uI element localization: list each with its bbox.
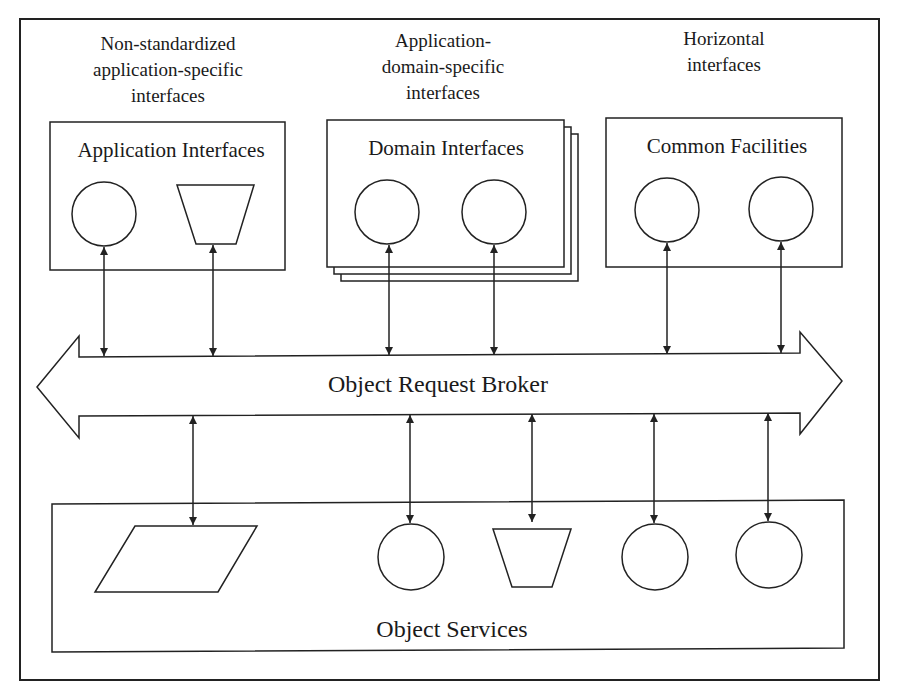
interface-circle-icon[interactable] <box>462 180 526 244</box>
caption-domain-specific: Application- domain-specific interfaces <box>382 30 504 103</box>
orb-title: Object Request Broker <box>328 371 548 397</box>
interface-circle-icon[interactable] <box>72 182 136 246</box>
caption-app-specific: Non-standardized application-specific in… <box>93 33 243 106</box>
caption-line: interfaces <box>406 82 480 103</box>
box-title: Object Services <box>376 616 527 642</box>
object-request-broker[interactable]: Object Request Broker <box>37 332 842 438</box>
corba-architecture-diagram: Non-standardized application-specific in… <box>0 0 898 691</box>
object-services-box[interactable]: Object Services <box>52 500 844 652</box>
caption-line: Application- <box>395 30 491 51</box>
caption-line: Non-standardized <box>100 33 236 54</box>
interface-circle-icon[interactable] <box>749 177 813 241</box>
interface-circle-icon[interactable] <box>355 180 419 244</box>
service-circle-icon[interactable] <box>378 524 444 590</box>
caption-line: application-specific <box>93 59 243 80</box>
interface-circle-icon[interactable] <box>635 178 699 242</box>
box-title: Application Interfaces <box>77 138 264 162</box>
caption-line: interfaces <box>131 85 205 106</box>
service-circle-icon[interactable] <box>736 522 802 588</box>
domain-interfaces-box[interactable]: Domain Interfaces <box>327 120 578 281</box>
caption-line: domain-specific <box>382 56 504 77</box>
box-title: Domain Interfaces <box>368 136 524 160</box>
caption-line: Horizontal <box>683 28 764 49</box>
service-circle-icon[interactable] <box>622 524 688 590</box>
caption-line: interfaces <box>687 54 761 75</box>
caption-horizontal: Horizontal interfaces <box>683 28 764 75</box>
application-interfaces-box[interactable]: Application Interfaces <box>50 122 285 270</box>
box-title: Common Facilities <box>647 134 807 158</box>
common-facilities-box[interactable]: Common Facilities <box>606 118 842 267</box>
